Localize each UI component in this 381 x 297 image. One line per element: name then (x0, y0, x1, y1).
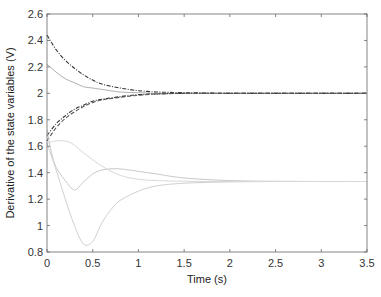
y-tick-label: 2.6 (28, 8, 43, 20)
y-tick-label: 1.4 (28, 167, 43, 179)
x-tick-label: 2.5 (268, 257, 283, 269)
y-tick-label: 1 (37, 220, 43, 232)
y-tick-label: 0.8 (28, 246, 43, 258)
x-tick-label: 0.5 (85, 257, 100, 269)
y-axis-label: Derivative of the state variables (V) (4, 47, 16, 218)
x-axis-label: Time (s) (187, 273, 227, 285)
x-tick-label: 2 (227, 257, 233, 269)
y-tick-label: 2.2 (28, 61, 43, 73)
x-tick-label: 1 (135, 257, 141, 269)
x-tick-label: 3 (318, 257, 324, 269)
plot-background (47, 14, 367, 252)
y-tick-label: 1.8 (28, 114, 43, 126)
y-tick-label: 1.6 (28, 140, 43, 152)
y-tick-label: 2 (37, 87, 43, 99)
y-tick-label: 1.2 (28, 193, 43, 205)
line-chart: 00.511.522.533.5 0.811.21.41.61.822.22.4… (0, 0, 381, 297)
y-tick-label: 2.4 (28, 34, 43, 46)
x-tick-label: 0 (44, 257, 50, 269)
x-tick-label: 1.5 (176, 257, 191, 269)
x-tick-label: 3.5 (359, 257, 374, 269)
